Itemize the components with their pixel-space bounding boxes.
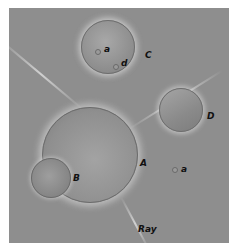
label-cell-d: D bbox=[207, 112, 214, 121]
label-cell-c: C bbox=[145, 51, 152, 60]
cell-b bbox=[31, 158, 71, 198]
label-inclusion-a-in-c: a bbox=[104, 45, 110, 54]
label-inclusion-d-in-c: d bbox=[121, 59, 127, 68]
label-cell-a: A bbox=[140, 159, 147, 168]
ray-bottom bbox=[120, 197, 150, 243]
label-ray: Ray bbox=[138, 225, 157, 234]
ray-upper-left bbox=[9, 38, 84, 110]
inclusion-d-in-c bbox=[113, 64, 119, 70]
micrograph: a d C D A B a Ray bbox=[9, 8, 229, 243]
label-inclusion-a-outside: a bbox=[181, 165, 187, 174]
inclusion-a-outside bbox=[172, 167, 178, 173]
cell-d bbox=[159, 88, 203, 132]
label-cell-b: B bbox=[73, 174, 80, 183]
inclusion-a-in-c bbox=[95, 49, 101, 55]
